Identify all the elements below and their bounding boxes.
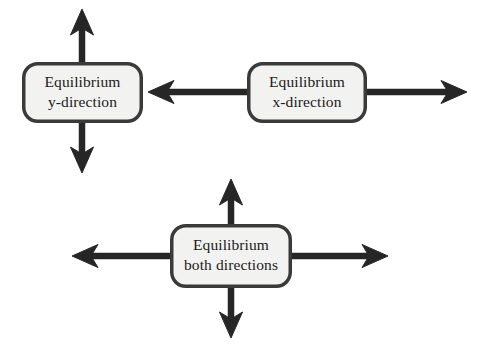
arrow-down: [220, 288, 243, 338]
node-equilibrium-both[interactable]: Equilibriumboth directions: [172, 226, 291, 287]
node-label-line2: both directions: [184, 256, 278, 273]
node-label-line1: Equilibrium: [193, 236, 269, 253]
arrow-left: [148, 81, 247, 104]
arrow-down: [71, 123, 94, 173]
arrow-up: [71, 9, 94, 62]
arrow-left: [72, 245, 170, 268]
node-equilibrium-y[interactable]: Equilibriumy-direction: [24, 64, 142, 122]
node-label-line1: Equilibrium: [269, 73, 345, 90]
node-label-line2: y-direction: [48, 93, 117, 110]
arrow-layer: [71, 9, 468, 338]
diagram-canvas: Equilibriumy-directionEquilibriumx-direc…: [0, 0, 481, 362]
arrow-up: [220, 179, 243, 224]
node-label-line1: Equilibrium: [44, 73, 120, 90]
arrow-right: [367, 81, 467, 104]
arrow-right: [292, 245, 388, 268]
node-equilibrium-x[interactable]: Equilibriumx-direction: [249, 64, 366, 122]
equilibrium-diagram: Equilibriumy-directionEquilibriumx-direc…: [0, 0, 481, 362]
node-label-line2: x-direction: [272, 93, 341, 110]
